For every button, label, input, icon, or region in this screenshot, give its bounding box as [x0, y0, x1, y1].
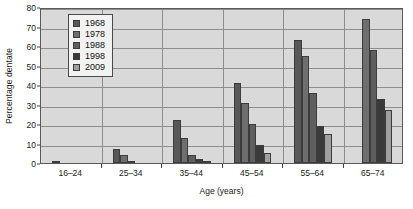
y-axis-tick-labels: 01020304050607080	[18, 8, 40, 164]
y-tick-label: 40	[27, 81, 36, 91]
bar-chart: Percentage dentate 01020304050607080 196…	[0, 0, 413, 209]
x-tick-label: 16–24	[58, 168, 82, 178]
bar	[362, 19, 370, 163]
y-tick-label: 60	[27, 42, 36, 52]
bar	[294, 40, 302, 163]
bar	[324, 134, 332, 163]
legend-item-label: 1998	[85, 52, 105, 61]
y-tick-label: 50	[27, 62, 36, 72]
x-tick-mark	[161, 164, 162, 168]
bar	[181, 138, 189, 163]
legend-item[interactable]: 1998	[73, 51, 105, 62]
bar-group	[113, 9, 151, 163]
bar	[302, 56, 310, 163]
x-tick-label: 35–44	[179, 168, 203, 178]
y-tick-label: 30	[27, 101, 36, 111]
gridline-vertical	[223, 9, 224, 163]
legend-item[interactable]: 1988	[73, 40, 105, 51]
bar-group	[234, 9, 272, 163]
bar-group	[355, 9, 393, 163]
bar	[188, 155, 196, 163]
y-tick-label: 20	[27, 120, 36, 130]
gridline-vertical	[344, 9, 345, 163]
x-tick-mark	[282, 164, 283, 168]
legend: 19681978198819982009	[68, 14, 113, 77]
x-tick-mark	[343, 164, 344, 168]
legend-item[interactable]: 2009	[73, 62, 105, 73]
gridline-horizontal	[41, 146, 402, 147]
x-tick-mark	[101, 164, 102, 168]
legend-item-label: 1978	[85, 30, 105, 39]
x-tick-label: 25–34	[119, 168, 143, 178]
bar	[128, 161, 136, 163]
gridline-horizontal	[41, 87, 402, 88]
legend-item-label: 1968	[85, 19, 105, 28]
gridline-horizontal	[41, 9, 402, 10]
x-tick-label: 65–74	[361, 168, 385, 178]
legend-swatch-icon	[73, 31, 80, 38]
y-axis-title-label: Percentage dentate	[4, 48, 14, 124]
bar	[196, 159, 204, 163]
legend-swatch-icon	[73, 42, 80, 49]
legend-item[interactable]: 1968	[73, 18, 105, 29]
gridline-vertical	[283, 9, 284, 163]
bar	[120, 155, 128, 163]
bar	[52, 161, 60, 163]
bar	[113, 149, 121, 163]
bar	[203, 161, 211, 163]
bar-group	[294, 9, 332, 163]
bar	[249, 124, 257, 163]
bar	[370, 50, 378, 163]
gridline-horizontal	[41, 107, 402, 108]
x-axis-tick-labels: 16–2425–3435–4445–5455–6465–74	[40, 168, 403, 182]
legend-item-label: 2009	[85, 63, 105, 72]
bar	[256, 145, 264, 163]
bar	[385, 110, 393, 163]
x-tick-mark	[222, 164, 223, 168]
y-tick-label: 80	[27, 3, 36, 13]
legend-swatch-icon	[73, 20, 80, 27]
x-axis-title: Age (years)	[40, 186, 403, 196]
bar	[317, 126, 325, 163]
bar	[377, 99, 385, 163]
legend-item[interactable]: 1978	[73, 29, 105, 40]
legend-swatch-icon	[73, 64, 80, 71]
gridline-horizontal	[41, 126, 402, 127]
bar	[241, 103, 249, 163]
bar	[173, 120, 181, 163]
bar	[264, 153, 272, 163]
legend-swatch-icon	[73, 53, 80, 60]
y-tick-label: 70	[27, 23, 36, 33]
bar	[234, 83, 242, 163]
y-tick-label: 10	[27, 140, 36, 150]
bar-group	[173, 9, 211, 163]
legend-item-label: 1988	[85, 41, 105, 50]
gridline-vertical	[162, 9, 163, 163]
y-tick-label: 0	[31, 159, 36, 169]
y-axis-title: Percentage dentate	[0, 0, 18, 172]
x-tick-label: 55–64	[300, 168, 324, 178]
bar	[309, 93, 317, 163]
x-tick-label: 45–54	[240, 168, 264, 178]
